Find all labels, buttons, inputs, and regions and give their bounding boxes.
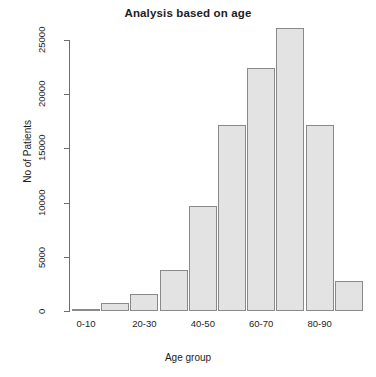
bar <box>306 125 334 311</box>
y-axis-title: No of Patients <box>22 120 33 183</box>
y-axis-tick <box>64 148 69 149</box>
bar <box>101 303 129 311</box>
bar-chart-figure: Analysis based on age 050001000015000200… <box>0 0 376 377</box>
bar <box>335 281 363 311</box>
bar <box>189 206 217 311</box>
x-axis-title: Age group <box>0 352 376 363</box>
bars-layer <box>72 40 364 311</box>
bar <box>247 68 275 311</box>
y-axis-tick-label: 10000 <box>36 179 47 227</box>
y-axis-tick <box>64 311 69 312</box>
bar <box>218 125 246 311</box>
bar <box>160 270 188 311</box>
x-axis-tick-label: 60-70 <box>249 318 273 329</box>
bar <box>130 294 158 311</box>
y-axis-tick-label: 15000 <box>36 124 47 172</box>
chart-title: Analysis based on age <box>0 7 376 19</box>
x-axis-tick-label: 80-90 <box>307 318 331 329</box>
x-axis-tick-label: 20-30 <box>132 318 156 329</box>
bar <box>72 309 100 311</box>
y-axis-line <box>69 40 70 312</box>
x-axis-tick-label: 40-50 <box>191 318 215 329</box>
y-axis-tick-label: 20000 <box>36 70 47 118</box>
y-axis-tick-label: 5000 <box>36 233 47 281</box>
y-axis-tick <box>64 94 69 95</box>
y-axis-tick-label: 0 <box>36 287 47 335</box>
y-axis-tick <box>64 203 69 204</box>
y-axis-tick <box>64 40 69 41</box>
x-axis-tick-label: 0-10 <box>76 318 95 329</box>
bar <box>276 28 304 311</box>
y-axis-tick-label: 25000 <box>36 16 47 64</box>
y-axis-tick <box>64 257 69 258</box>
